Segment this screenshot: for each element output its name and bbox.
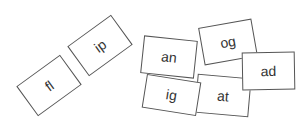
card-label: ad (261, 64, 277, 78)
card-label: fl (42, 78, 56, 93)
card-label: og (219, 34, 237, 50)
card-label: ip (91, 37, 108, 55)
card-ig[interactable]: ig (142, 74, 202, 116)
card-label: an (161, 49, 178, 65)
card-label: ig (165, 87, 178, 103)
card-fl[interactable]: fl (16, 55, 81, 117)
card-label: at (217, 88, 230, 103)
card-ip[interactable]: ip (67, 15, 132, 77)
card-ad[interactable]: ad (242, 52, 296, 91)
card-an[interactable]: an (140, 35, 198, 78)
